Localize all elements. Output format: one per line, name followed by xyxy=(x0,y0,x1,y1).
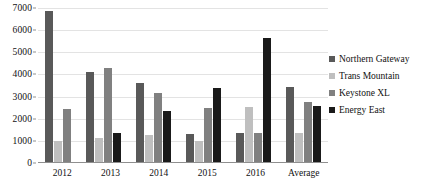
bar xyxy=(254,133,262,163)
y-axis-tick-label: 2000 xyxy=(13,114,32,124)
x-axis-line xyxy=(38,162,328,163)
legend-item-label: Keystone XL xyxy=(339,88,390,98)
y-axis-tick-mark xyxy=(33,96,36,97)
y-axis-tick-mark xyxy=(33,163,36,164)
bar-group xyxy=(45,8,71,163)
bar xyxy=(186,134,194,163)
bar xyxy=(263,38,271,163)
bar xyxy=(286,87,294,163)
y-axis-tick-label: 6000 xyxy=(13,25,32,35)
y-axis-tick-mark xyxy=(33,30,36,31)
bar xyxy=(236,133,244,163)
bar xyxy=(54,141,62,163)
legend-item-label: Energy East xyxy=(339,105,385,115)
legend-swatch-icon xyxy=(329,90,335,96)
y-axis-tick-mark xyxy=(33,74,36,75)
bar-groups xyxy=(38,8,328,163)
bar xyxy=(154,93,162,163)
bar xyxy=(136,83,144,163)
x-axis-tick-label: 2015 xyxy=(183,164,231,182)
y-axis-tick-label: 7000 xyxy=(13,3,32,13)
bar xyxy=(195,141,203,163)
legend-item[interactable]: Energy East xyxy=(329,103,429,117)
bar-group xyxy=(186,8,221,163)
bar xyxy=(113,133,121,163)
bar xyxy=(45,11,53,163)
y-axis-tick-label: 0 xyxy=(27,158,32,168)
y-axis-tick-mark xyxy=(33,118,36,119)
legend-item-label: Northern Gateway xyxy=(339,54,409,64)
x-axis-tick-label: 2014 xyxy=(135,164,183,182)
legend-item[interactable]: Northern Gateway xyxy=(329,52,429,66)
y-axis-tick-mark xyxy=(33,140,36,141)
y-axis: 01000200030004000500060007000 xyxy=(0,8,36,163)
bar xyxy=(204,108,212,163)
chart-legend: Northern GatewayTrans MountainKeystone X… xyxy=(329,52,429,120)
x-axis-tick-label: 2016 xyxy=(231,164,279,182)
y-axis-tick-label: 5000 xyxy=(13,47,32,57)
x-axis-tick-label: Average xyxy=(280,164,328,182)
y-axis-tick-mark xyxy=(33,8,36,9)
bar xyxy=(104,68,112,163)
bar-group xyxy=(86,8,121,163)
x-axis-labels: 20122013201420152016Average xyxy=(38,164,328,182)
bar-group xyxy=(236,8,271,163)
bar xyxy=(95,138,103,163)
y-axis-tick-label: 1000 xyxy=(13,136,32,146)
legend-item-label: Trans Mountain xyxy=(339,71,400,81)
legend-item[interactable]: Trans Mountain xyxy=(329,69,429,83)
legend-swatch-icon xyxy=(329,73,335,79)
bar-group xyxy=(286,8,321,163)
x-axis-tick-label: 2013 xyxy=(86,164,134,182)
legend-swatch-icon xyxy=(329,56,335,62)
bar-chart: 01000200030004000500060007000 2012201320… xyxy=(0,0,433,193)
bar xyxy=(86,72,94,163)
legend-swatch-icon xyxy=(329,107,335,113)
y-axis-tick-mark xyxy=(33,52,36,53)
bar xyxy=(245,107,253,163)
bar xyxy=(63,109,71,163)
y-axis-tick-label: 3000 xyxy=(13,92,32,102)
bar-group xyxy=(136,8,171,163)
bar xyxy=(213,88,221,163)
x-axis-tick-label: 2012 xyxy=(38,164,86,182)
y-axis-tick-label: 4000 xyxy=(13,69,32,79)
bar xyxy=(145,135,153,163)
bar xyxy=(313,106,321,163)
bar xyxy=(304,102,312,163)
legend-item[interactable]: Keystone XL xyxy=(329,86,429,100)
plot-area xyxy=(38,8,328,163)
bar xyxy=(295,133,303,163)
bar xyxy=(163,111,171,163)
